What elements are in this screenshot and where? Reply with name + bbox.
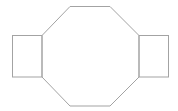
right-square [139, 36, 169, 78]
center-octagon [42, 7, 139, 107]
diagram-canvas [0, 0, 178, 111]
left-square [13, 36, 43, 78]
diagram-svg [0, 0, 178, 111]
